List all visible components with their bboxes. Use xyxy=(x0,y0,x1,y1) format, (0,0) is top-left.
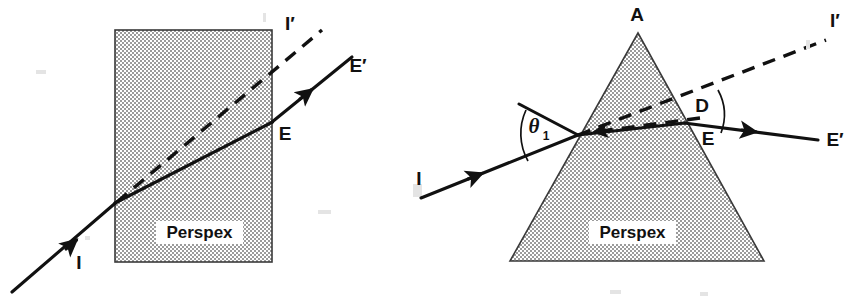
right-incident-ray-label: I xyxy=(416,168,421,189)
scan-speck xyxy=(263,13,266,22)
refraction-figure: Perspex I I′ E E′ xyxy=(0,0,855,308)
right-incident-extension-label: I′ xyxy=(830,10,840,31)
right-emergent-ray-arrow xyxy=(742,130,756,132)
incidence-angle-subscript: 1 xyxy=(543,129,550,143)
left-incident-ray-label: I xyxy=(76,252,81,273)
prism-apex-label: A xyxy=(630,4,644,25)
deviation-angle-label: D xyxy=(695,95,709,116)
right-diagram-group: Perspex A I I′ D E E′ θ 1 xyxy=(416,4,844,296)
figure-canvas: Perspex I I′ E E′ xyxy=(0,0,855,308)
scan-speck xyxy=(806,40,810,49)
right-incident-ray-arrow xyxy=(468,173,482,179)
incidence-angle-arc xyxy=(521,110,528,161)
left-material-label: Perspex xyxy=(166,223,233,242)
scan-speck xyxy=(85,236,90,240)
scan-speck xyxy=(318,210,331,214)
left-incident-extension-label: I′ xyxy=(285,13,295,34)
scan-speck xyxy=(36,70,46,74)
right-emergent-ray-label: E′ xyxy=(826,129,844,150)
incidence-angle-symbol: θ xyxy=(529,114,540,138)
right-material-label: Perspex xyxy=(599,223,666,242)
left-emergent-ray-arrow xyxy=(300,90,312,100)
left-emergent-ray-label: E′ xyxy=(349,55,367,76)
scan-speck xyxy=(610,290,621,294)
left-diagram-group: Perspex I I′ E E′ xyxy=(12,13,422,292)
left-incident-ray xyxy=(12,203,116,293)
left-exit-point-label: E xyxy=(279,123,292,144)
scan-speck xyxy=(700,292,708,296)
right-exit-point-label: E xyxy=(702,128,715,149)
